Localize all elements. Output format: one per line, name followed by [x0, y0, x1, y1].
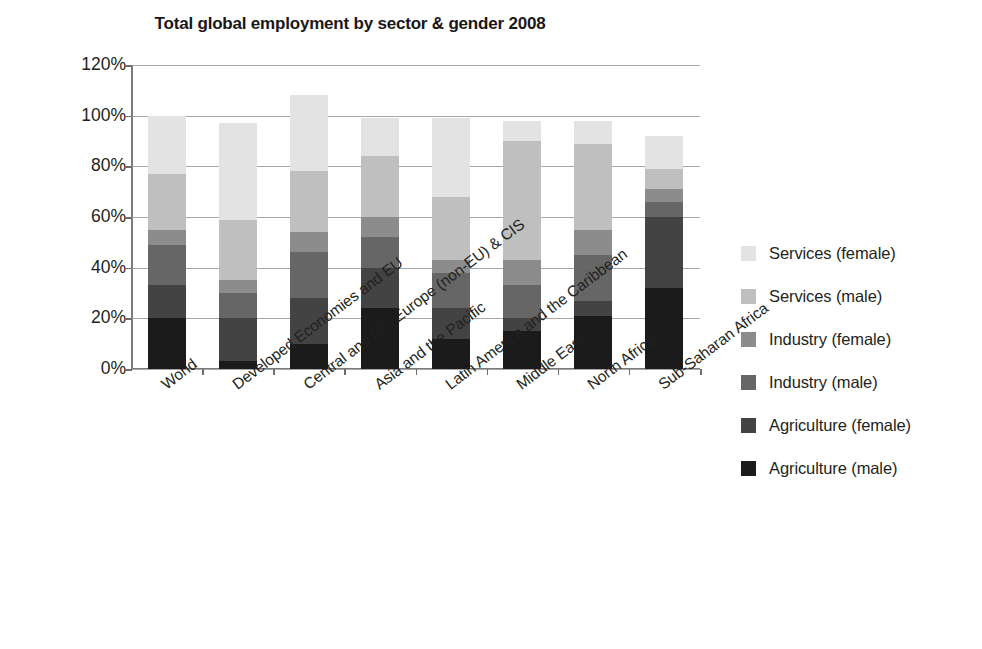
bar-segment-industry-male[interactable] — [503, 285, 541, 318]
bar-segment-services-female[interactable] — [148, 116, 186, 174]
bar-segment-agriculture-female[interactable] — [645, 217, 683, 288]
bar-segment-agriculture-female[interactable] — [574, 301, 612, 316]
plot-area — [131, 65, 700, 369]
bar-north-africa[interactable] — [574, 65, 612, 369]
y-tick-mark — [125, 65, 132, 67]
legend-label: Agriculture (female) — [769, 416, 911, 435]
y-tick-label: 40% — [66, 257, 126, 278]
x-tick-mark — [558, 369, 560, 375]
legend-item-agriculture-female[interactable]: Agriculture (female) — [741, 404, 971, 447]
y-tick-mark — [125, 116, 132, 118]
bar-segment-services-female[interactable] — [432, 118, 470, 197]
legend-swatch-agriculture-male — [741, 461, 756, 476]
legend-item-agriculture-male[interactable]: Agriculture (male) — [741, 447, 971, 490]
bar-segment-agriculture-male[interactable] — [290, 344, 328, 369]
gridline-120 — [131, 65, 700, 66]
bar-segment-agriculture-female[interactable] — [432, 308, 470, 338]
y-axis-tick-labels: 0%20%40%60%80%100%120% — [64, 65, 126, 369]
y-tick-mark — [125, 166, 132, 168]
legend-swatch-industry-male — [741, 375, 756, 390]
bar-segment-services-female[interactable] — [290, 95, 328, 171]
bar-segment-industry-female[interactable] — [361, 217, 399, 237]
bar-segment-agriculture-male[interactable] — [148, 318, 186, 369]
bar-segment-industry-male[interactable] — [432, 273, 470, 308]
bar-segment-industry-male[interactable] — [148, 245, 186, 286]
bar-segment-industry-male[interactable] — [290, 252, 328, 298]
y-tick-label: 80% — [66, 155, 126, 176]
bar-segment-industry-male[interactable] — [645, 202, 683, 217]
bar-segment-industry-female[interactable] — [290, 232, 328, 252]
y-tick-label: 0% — [66, 358, 126, 379]
y-tick-label: 20% — [66, 307, 126, 328]
bar-segment-services-male[interactable] — [574, 144, 612, 230]
y-tick-label: 100% — [66, 105, 126, 126]
bar-segment-services-male[interactable] — [645, 169, 683, 189]
bar-segment-industry-female[interactable] — [219, 280, 257, 293]
x-tick-mark — [416, 369, 418, 375]
bar-segment-industry-female[interactable] — [574, 230, 612, 255]
chart-legend: Services (female)Services (male)Industry… — [741, 232, 971, 490]
bar-segment-services-female[interactable] — [361, 118, 399, 156]
chart-title: Total global employment by sector & gend… — [0, 14, 700, 34]
bar-asia-and-the-pacific[interactable] — [361, 65, 399, 369]
bar-segment-industry-female[interactable] — [148, 230, 186, 245]
legend-swatch-services-male — [741, 289, 756, 304]
legend-item-industry-female[interactable]: Industry (female) — [741, 318, 971, 361]
legend-label: Industry (female) — [769, 330, 891, 349]
x-tick-mark — [487, 369, 489, 375]
bar-segment-industry-male[interactable] — [574, 255, 612, 301]
bar-segment-services-male[interactable] — [290, 171, 328, 232]
legend-label: Agriculture (male) — [769, 459, 897, 478]
bar-segment-services-female[interactable] — [219, 123, 257, 219]
bar-sub-saharan-africa[interactable] — [645, 65, 683, 369]
legend-item-industry-male[interactable]: Industry (male) — [741, 361, 971, 404]
x-tick-mark — [344, 369, 346, 375]
x-tick-mark — [629, 369, 631, 375]
bar-segment-services-male[interactable] — [219, 220, 257, 281]
bar-segment-services-male[interactable] — [503, 141, 541, 260]
y-tick-mark — [125, 369, 132, 371]
bar-segment-agriculture-male[interactable] — [219, 361, 257, 369]
x-tick-mark — [273, 369, 275, 375]
x-tick-mark — [700, 369, 702, 375]
bar-middle-east[interactable] — [503, 65, 541, 369]
bar-latin-america-and-the-caribbean[interactable] — [432, 65, 470, 369]
legend-swatch-industry-female — [741, 332, 756, 347]
chart-container: Total global employment by sector & gend… — [0, 0, 982, 649]
bar-segment-services-female[interactable] — [645, 136, 683, 169]
y-tick-mark — [125, 268, 132, 270]
gridline-80 — [131, 166, 700, 167]
y-tick-label: 60% — [66, 206, 126, 227]
legend-label: Services (female) — [769, 244, 896, 263]
bar-segment-agriculture-male[interactable] — [432, 339, 470, 369]
bar-segment-industry-female[interactable] — [432, 260, 470, 273]
gridline-20 — [131, 318, 700, 319]
legend-swatch-services-female — [741, 246, 756, 261]
bar-segment-industry-male[interactable] — [361, 237, 399, 267]
bar-segment-agriculture-female[interactable] — [148, 285, 186, 318]
bar-segment-services-male[interactable] — [148, 174, 186, 230]
bar-segment-industry-female[interactable] — [645, 189, 683, 202]
bar-segment-agriculture-male[interactable] — [361, 308, 399, 369]
legend-label: Industry (male) — [769, 373, 878, 392]
bar-developed-economies-and-eu[interactable] — [219, 65, 257, 369]
bar-segment-agriculture-female[interactable] — [290, 298, 328, 344]
bar-segment-industry-female[interactable] — [503, 260, 541, 285]
bar-central-and-se-europe-non-eu-cis[interactable] — [290, 65, 328, 369]
bar-segment-agriculture-female[interactable] — [219, 318, 257, 361]
y-tick-mark — [125, 318, 132, 320]
bar-segment-services-male[interactable] — [432, 197, 470, 260]
bar-segment-services-male[interactable] — [361, 156, 399, 217]
bar-segment-industry-male[interactable] — [219, 293, 257, 318]
bar-segment-services-female[interactable] — [503, 121, 541, 141]
bar-segment-agriculture-male[interactable] — [574, 316, 612, 369]
bar-segment-agriculture-female[interactable] — [503, 318, 541, 331]
bar-world[interactable] — [148, 65, 186, 369]
bar-segment-agriculture-male[interactable] — [645, 288, 683, 369]
bar-segment-agriculture-male[interactable] — [503, 331, 541, 369]
bar-segment-agriculture-female[interactable] — [361, 268, 399, 309]
legend-item-services-male[interactable]: Services (male) — [741, 275, 971, 318]
gridline-40 — [131, 268, 700, 269]
legend-item-services-female[interactable]: Services (female) — [741, 232, 971, 275]
bar-segment-services-female[interactable] — [574, 121, 612, 144]
